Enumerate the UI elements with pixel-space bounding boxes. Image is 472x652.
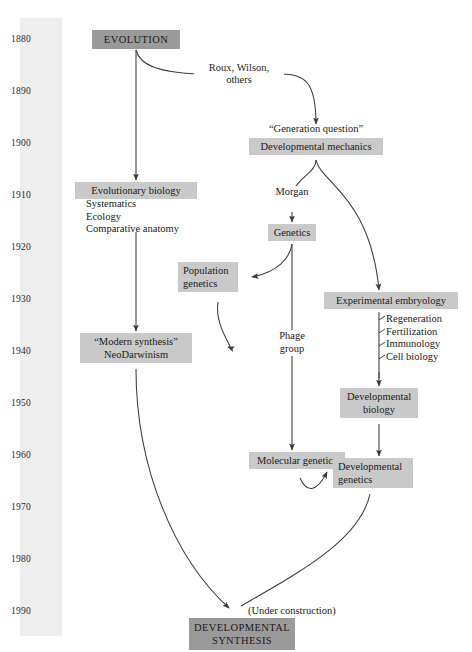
node-developmental-biology-line2: biology (345, 403, 413, 416)
node-evolutionary-biology[interactable]: Evolutionary biology (75, 182, 197, 199)
edge-label-phage-group-line1: Phage (266, 330, 318, 343)
sublist-item-systematics: Systematics (86, 198, 226, 211)
node-genetics[interactable]: Genetics (268, 224, 316, 241)
sublist-item-comparative-anatomy: Comparative anatomy (86, 223, 226, 236)
sublist-item-fertilization: Fertilization (386, 326, 472, 339)
edge-label-under-construction: (Under construction) (248, 605, 368, 618)
node-developmental-genetics-line1: Developmental (338, 460, 408, 473)
node-population-genetics[interactable]: Population genetics (178, 262, 238, 292)
year-label-1900: 1900 (0, 138, 42, 148)
node-developmental-synthesis-line2: SYNTHESIS (194, 634, 290, 647)
year-label-1950: 1950 (0, 398, 42, 408)
node-developmental-genetics[interactable]: Developmental genetics (333, 458, 413, 488)
year-label-1990: 1990 (0, 606, 42, 616)
edge-label-phage-group-line2: group (266, 343, 318, 356)
sublist-item-cell-biology: Cell biology (386, 351, 472, 364)
node-developmental-genetics-line2: genetics (338, 473, 408, 486)
node-generation-question: “Generation question” (249, 122, 383, 135)
year-label-1920: 1920 (0, 242, 42, 252)
node-modern-synthesis[interactable]: “Modern synthesis” NeoDarwinism (80, 333, 192, 363)
node-developmental-biology-line1: Developmental (345, 390, 413, 403)
node-molecular-genetics[interactable]: Molecular genetics (249, 452, 345, 469)
node-population-genetics-line2: genetics (183, 277, 233, 290)
node-developmental-synthesis-line1: DEVELOPMENTAL (194, 621, 290, 634)
year-label-1970: 1970 (0, 502, 42, 512)
year-label-1960: 1960 (0, 450, 42, 460)
evolution-developmental-synthesis-diagram: 1880 1890 1900 1910 1920 1930 1940 1950 … (0, 0, 472, 652)
node-developmental-mechanics[interactable]: Developmental mechanics (249, 138, 383, 155)
year-label-1980: 1980 (0, 554, 42, 564)
node-modern-synthesis-line2: NeoDarwinism (85, 348, 187, 361)
sublist-item-regeneration: Regeneration (386, 313, 472, 326)
edge-label-roux-wilson-line2: others (194, 74, 284, 87)
edge-label-morgan: Morgan (262, 186, 322, 199)
sublist-experimental-embryology-fields: Regeneration Fertilization Immunology Ce… (386, 313, 472, 363)
year-label-1930: 1930 (0, 294, 42, 304)
timeline-axis (20, 18, 62, 636)
node-population-genetics-line1: Population (183, 264, 233, 277)
edge-label-roux-wilson-line1: Roux, Wilson, (194, 62, 284, 75)
sublist-item-immunology: Immunology (386, 338, 472, 351)
node-evolution[interactable]: EVOLUTION (92, 30, 180, 49)
sublist-evolutionary-biology-fields: Systematics Ecology Comparative anatomy (86, 198, 226, 236)
node-experimental-embryology[interactable]: Experimental embryology (324, 292, 458, 309)
year-label-1940: 1940 (0, 346, 42, 356)
node-developmental-biology[interactable]: Developmental biology (340, 388, 418, 418)
year-label-1880: 1880 (0, 34, 42, 44)
node-developmental-synthesis[interactable]: DEVELOPMENTAL SYNTHESIS (189, 618, 295, 650)
sublist-item-ecology: Ecology (86, 211, 226, 224)
year-label-1890: 1890 (0, 86, 42, 96)
node-modern-synthesis-line1: “Modern synthesis” (85, 335, 187, 348)
year-label-1910: 1910 (0, 190, 42, 200)
